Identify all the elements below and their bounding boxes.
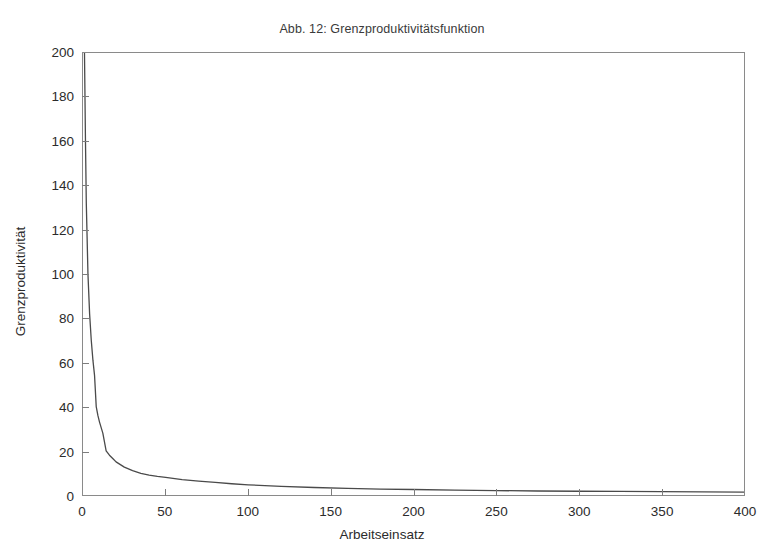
x-tick-label: 0 xyxy=(52,504,112,519)
y-tick-mark xyxy=(82,185,89,186)
y-tick-mark xyxy=(82,230,89,231)
y-tick-mark xyxy=(82,407,89,408)
x-tick-label: 300 xyxy=(549,504,609,519)
y-tick-label: 20 xyxy=(6,444,74,459)
y-tick-label: 40 xyxy=(6,400,74,415)
marginal-productivity-curve xyxy=(83,53,744,495)
x-tick-mark xyxy=(331,489,332,496)
x-tick-mark xyxy=(165,489,166,496)
x-tick-mark xyxy=(248,489,249,496)
y-tick-label: 140 xyxy=(6,178,74,193)
y-tick-label: 200 xyxy=(6,45,74,60)
chart-title: Abb. 12: Grenzproduktivitätsfunktion xyxy=(0,22,764,36)
x-tick-label: 400 xyxy=(715,504,764,519)
x-tick-mark xyxy=(662,489,663,496)
y-tick-label: 0 xyxy=(6,489,74,504)
x-axis-label: Arbeitseinsatz xyxy=(0,527,764,542)
chart-figure: Abb. 12: Grenzproduktivitätsfunktion 020… xyxy=(0,0,764,560)
y-tick-mark xyxy=(82,96,89,97)
x-tick-label: 350 xyxy=(632,504,692,519)
x-tick-mark xyxy=(579,489,580,496)
x-tick-label: 250 xyxy=(466,504,526,519)
y-tick-label: 160 xyxy=(6,133,74,148)
y-tick-label: 180 xyxy=(6,89,74,104)
plot-area xyxy=(82,52,745,496)
x-tick-label: 100 xyxy=(218,504,278,519)
x-tick-mark xyxy=(496,489,497,496)
x-tick-label: 200 xyxy=(384,504,444,519)
y-tick-mark xyxy=(82,318,89,319)
y-tick-mark xyxy=(82,452,89,453)
y-tick-mark xyxy=(82,363,89,364)
x-tick-mark xyxy=(414,489,415,496)
y-tick-mark xyxy=(82,274,89,275)
y-axis-label: Grenzproduktivität xyxy=(13,202,28,362)
x-tick-label: 50 xyxy=(135,504,195,519)
y-tick-mark xyxy=(82,141,89,142)
x-tick-label: 150 xyxy=(301,504,361,519)
